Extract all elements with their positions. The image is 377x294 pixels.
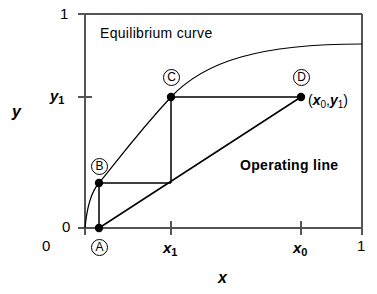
coord-paren-close: ) (343, 92, 348, 108)
equilibrium-curve (85, 44, 362, 228)
plot-canvas (0, 0, 377, 294)
x-tick-label-x1-sub: 1 (171, 246, 177, 258)
y-tick-label-y1: y1 (50, 88, 64, 103)
x-axis-title: x (218, 270, 227, 286)
coord-y-symbol: y (330, 92, 338, 108)
x-tick-label-x1: x1 (163, 240, 177, 255)
point-marker-a (95, 224, 103, 232)
equilibrium-diagram-figure: 1 y1 0 y 0 x1 x0 1 x Equilibrium curve O… (0, 0, 377, 294)
coord-y-subscript: 1 (338, 99, 344, 110)
point-d-coordinate-label: (x0,y1) (308, 93, 348, 107)
node-badge-c: C (163, 69, 180, 86)
tick-marks (78, 14, 362, 235)
y-tick-label-top: 1 (60, 6, 68, 21)
y-tick-label-zero: 0 (62, 219, 70, 234)
x-tick-label-zero: 0 (42, 238, 50, 253)
operating-line-label: Operating line (240, 158, 338, 172)
node-badge-a: A (91, 239, 108, 256)
y-axis-title: y (12, 104, 21, 120)
x-tick-label-max: 1 (357, 238, 365, 253)
x-tick-label-x0-sub: 0 (301, 246, 307, 258)
x-tick-label-x0: x0 (293, 240, 307, 255)
axis-frame (85, 14, 362, 228)
y-tick-label-y1-sub: 1 (58, 94, 64, 106)
node-badge-d: D (293, 69, 310, 86)
node-badge-b: B (91, 158, 108, 175)
point-marker-c (167, 93, 175, 101)
point-marker-b (95, 179, 103, 187)
equilibrium-curve-label: Equilibrium curve (100, 26, 212, 40)
coord-x-subscript: 0 (320, 99, 326, 110)
point-marker-d (297, 93, 305, 101)
